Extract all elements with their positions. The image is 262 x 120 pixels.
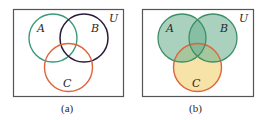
set-a-label: A <box>36 22 45 35</box>
panel-a: A B C U (a) <box>14 10 124 116</box>
set-a-label: A <box>165 22 174 35</box>
set-b-label: B <box>90 22 99 35</box>
caption-a: (a) <box>61 102 74 115</box>
universe-label: U <box>109 12 119 25</box>
caption-b: (b) <box>189 102 202 115</box>
set-c-label: C <box>63 77 72 90</box>
venn-diagram-figure: A B C U (a) A B C U (b) <box>0 0 262 120</box>
universe-label: U <box>239 12 249 25</box>
panel-b: A B C U (b) <box>143 10 254 116</box>
set-b-label: B <box>219 22 228 35</box>
set-c-label: C <box>192 77 201 90</box>
